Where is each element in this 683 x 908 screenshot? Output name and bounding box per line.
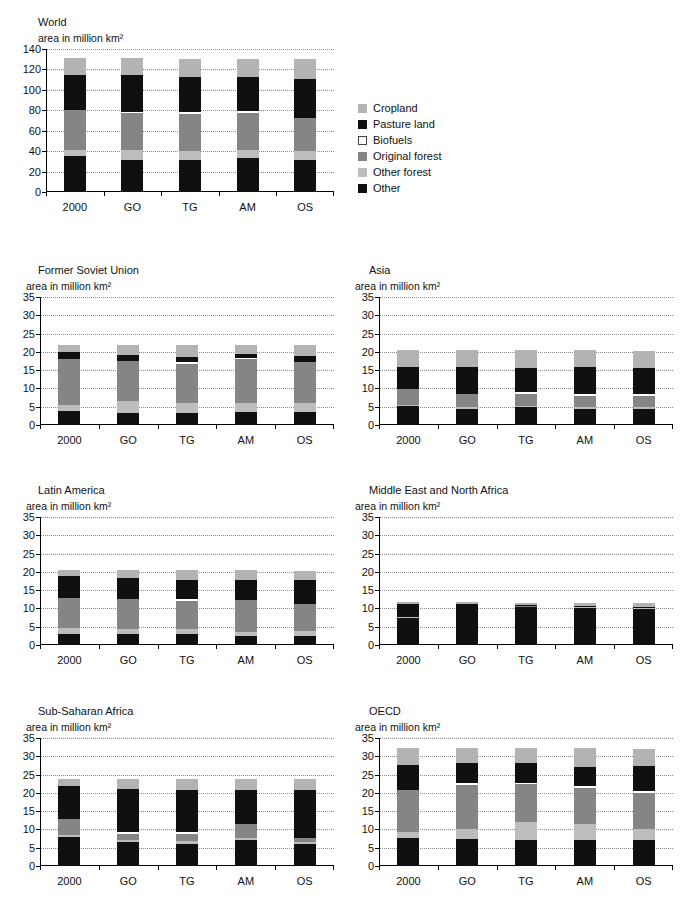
bar-stack[interactable] (456, 350, 478, 425)
bar-segment[interactable] (176, 841, 198, 844)
bar-stack[interactable] (515, 748, 537, 866)
bar-segment[interactable] (456, 606, 478, 645)
bar-stack[interactable] (117, 345, 139, 425)
bar-segment[interactable] (64, 110, 86, 150)
bar-segment[interactable] (294, 838, 316, 842)
bar-segment[interactable] (58, 405, 80, 410)
bar-stack[interactable] (294, 59, 316, 192)
bar-segment[interactable] (235, 358, 257, 359)
bar-segment[interactable] (397, 367, 419, 389)
bar-stack[interactable] (515, 603, 537, 645)
bar-segment[interactable] (176, 580, 198, 599)
bar-segment[interactable] (515, 748, 537, 763)
bar-segment[interactable] (515, 406, 537, 408)
bar-stack[interactable] (397, 748, 419, 866)
bar-stack[interactable] (176, 345, 198, 425)
bar-segment[interactable] (235, 779, 257, 790)
bar-segment[interactable] (58, 819, 80, 834)
bar-segment[interactable] (121, 112, 143, 114)
bar-segment[interactable] (176, 844, 198, 866)
bar-segment[interactable] (176, 634, 198, 645)
bar-stack[interactable] (456, 748, 478, 866)
bar-segment[interactable] (397, 602, 419, 604)
bar-segment[interactable] (294, 571, 316, 580)
bar-segment[interactable] (235, 580, 257, 600)
bar-stack[interactable] (179, 59, 201, 192)
bar-segment[interactable] (121, 58, 143, 75)
bar-segment[interactable] (294, 151, 316, 160)
bar-stack[interactable] (235, 779, 257, 866)
bar-segment[interactable] (574, 409, 596, 425)
bar-segment[interactable] (515, 407, 537, 425)
bar-segment[interactable] (117, 413, 139, 425)
bar-segment[interactable] (237, 158, 259, 192)
bar-segment[interactable] (574, 394, 596, 396)
bar-segment[interactable] (179, 112, 201, 114)
bar-segment[interactable] (456, 367, 478, 393)
bar-stack[interactable] (633, 351, 655, 425)
bar-segment[interactable] (117, 578, 139, 598)
legend-item[interactable]: Other (358, 180, 441, 196)
bar-stack[interactable] (64, 58, 86, 192)
bar-segment[interactable] (515, 840, 537, 866)
bar-segment[interactable] (633, 840, 655, 866)
bar-segment[interactable] (176, 834, 198, 841)
bar-stack[interactable] (117, 570, 139, 645)
bar-segment[interactable] (235, 790, 257, 824)
bar-segment[interactable] (176, 790, 198, 832)
bar-segment[interactable] (456, 748, 478, 763)
bar-segment[interactable] (117, 599, 139, 629)
bar-segment[interactable] (456, 839, 478, 866)
bar-segment[interactable] (179, 59, 201, 77)
bar-segment[interactable] (294, 631, 316, 635)
bar-segment[interactable] (176, 357, 198, 362)
bar-segment[interactable] (176, 629, 198, 634)
bar-segment[interactable] (633, 609, 655, 645)
legend-item[interactable]: Biofuels (358, 132, 441, 148)
bar-segment[interactable] (515, 822, 537, 840)
bar-segment[interactable] (235, 600, 257, 632)
bar-segment[interactable] (235, 403, 257, 412)
bar-segment[interactable] (397, 790, 419, 832)
bar-segment[interactable] (117, 361, 139, 402)
bar-segment[interactable] (633, 791, 655, 793)
bar-segment[interactable] (176, 599, 198, 600)
bar-segment[interactable] (117, 834, 139, 840)
bar-segment[interactable] (294, 790, 316, 838)
bar-segment[interactable] (58, 786, 80, 819)
bar-segment[interactable] (176, 413, 198, 425)
bar-segment[interactable] (117, 629, 139, 634)
bar-stack[interactable] (294, 779, 316, 866)
bar-segment[interactable] (397, 765, 419, 790)
bar-stack[interactable] (574, 603, 596, 645)
bar-segment[interactable] (179, 77, 201, 113)
bar-segment[interactable] (235, 840, 257, 866)
bar-segment[interactable] (574, 788, 596, 824)
bar-stack[interactable] (515, 350, 537, 425)
bar-segment[interactable] (235, 354, 257, 358)
bar-segment[interactable] (237, 150, 259, 158)
bar-stack[interactable] (235, 570, 257, 645)
bar-segment[interactable] (294, 160, 316, 192)
bar-segment[interactable] (633, 793, 655, 830)
bar-segment[interactable] (294, 79, 316, 119)
bar-segment[interactable] (456, 409, 478, 425)
bar-segment[interactable] (58, 779, 80, 786)
bar-segment[interactable] (633, 603, 655, 607)
bar-segment[interactable] (574, 748, 596, 767)
bar-segment[interactable] (456, 602, 478, 604)
bar-segment[interactable] (58, 352, 80, 360)
bar-segment[interactable] (633, 351, 655, 369)
bar-segment[interactable] (294, 842, 316, 844)
bar-segment[interactable] (574, 407, 596, 410)
bar-segment[interactable] (633, 829, 655, 840)
bar-segment[interactable] (397, 405, 419, 407)
bar-segment[interactable] (397, 618, 419, 645)
bar-segment[interactable] (456, 785, 478, 829)
bar-segment[interactable] (515, 392, 537, 394)
bar-segment[interactable] (58, 598, 80, 628)
bar-segment[interactable] (58, 835, 80, 837)
bar-segment[interactable] (176, 362, 198, 364)
bar-segment[interactable] (574, 786, 596, 788)
bar-segment[interactable] (117, 345, 139, 355)
